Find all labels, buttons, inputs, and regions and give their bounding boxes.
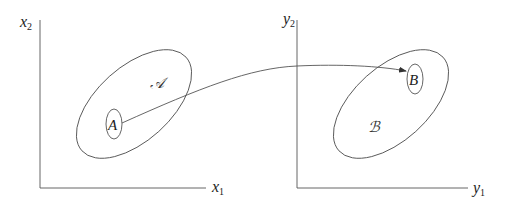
mapping-arrow: [122, 65, 406, 123]
point-a-label: A: [107, 117, 118, 133]
x2-axis-label: x2: [19, 13, 32, 32]
set-a-label: 𝒜: [150, 74, 169, 92]
left-axes: x2 x1: [19, 13, 224, 197]
mapping-diagram: x2 x1 𝒜 A y2 y1 ℬ B: [0, 0, 508, 202]
right-axes: y2 y1: [281, 10, 485, 198]
point-b-label: B: [409, 72, 418, 88]
set-a-ellipse: [57, 30, 211, 179]
x1-axis-label: x1: [211, 178, 224, 197]
y2-axis-label: y2: [281, 10, 295, 29]
set-b-label: ℬ: [368, 118, 381, 136]
y1-axis-label: y1: [471, 179, 485, 198]
set-b-ellipse: [314, 30, 468, 179]
